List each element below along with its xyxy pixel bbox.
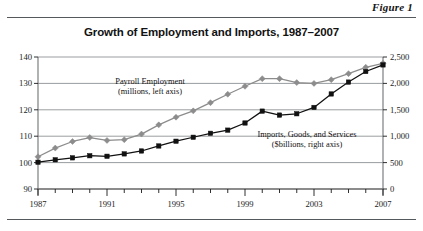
data-point xyxy=(174,139,178,143)
x-axis-tick-label: 1995 xyxy=(167,199,184,209)
line-chart: 9010011012013014005001,0001,5002,0002,50… xyxy=(0,0,423,231)
left-axis-tick-label: 140 xyxy=(19,52,32,62)
data-point xyxy=(208,131,212,135)
right-axis-tick-label: 2,000 xyxy=(390,78,409,88)
data-point xyxy=(294,80,300,86)
x-axis-tick-label: 1991 xyxy=(98,199,115,209)
data-point xyxy=(35,154,41,160)
data-point xyxy=(277,76,283,82)
imports-annotation-line1: Imports, Goods, and Services xyxy=(258,130,357,139)
data-point xyxy=(346,80,350,84)
right-axis-tick-label: 2,500 xyxy=(390,52,409,62)
data-point xyxy=(346,71,352,77)
left-axis-tick-label: 130 xyxy=(19,78,32,88)
data-point xyxy=(173,114,179,120)
data-point xyxy=(381,63,385,67)
data-point xyxy=(242,83,248,89)
figure-container: Figure 1 Growth of Employment and Import… xyxy=(0,0,423,231)
data-point xyxy=(157,144,161,148)
left-axis-tick-label: 120 xyxy=(19,105,32,115)
bottom-divider xyxy=(7,219,416,220)
data-point xyxy=(88,154,92,158)
data-point xyxy=(70,138,76,144)
right-axis-tick-label: 1,500 xyxy=(390,105,409,115)
data-point xyxy=(208,100,214,106)
right-axis-tick-label: 0 xyxy=(390,184,394,194)
x-axis-tick-label: 2007 xyxy=(374,199,392,209)
x-axis-tick-label: 1999 xyxy=(236,199,253,209)
data-point xyxy=(53,158,57,162)
data-point xyxy=(122,152,126,156)
x-axis-tick-label: 2003 xyxy=(305,199,322,209)
employment-annotation-line1: Payroll Employment xyxy=(115,77,185,86)
left-axis-tick-label: 110 xyxy=(19,131,32,141)
left-axis-tick-label: 90 xyxy=(23,184,32,194)
data-point xyxy=(70,156,74,160)
right-axis-tick-label: 500 xyxy=(390,158,403,168)
data-point xyxy=(311,80,317,86)
imports-annotation-line2: ($billions, right axis) xyxy=(272,140,343,149)
employment-annotation-line2: (millions, left axis) xyxy=(118,87,182,96)
x-axis-tick-label: 1987 xyxy=(29,199,47,209)
data-point xyxy=(295,112,299,116)
data-point xyxy=(52,145,58,151)
data-point xyxy=(87,135,93,141)
data-point xyxy=(364,69,368,73)
left-axis-tick-label: 100 xyxy=(19,158,32,168)
data-point xyxy=(191,135,195,139)
data-point xyxy=(36,160,40,164)
data-point xyxy=(104,137,110,143)
data-point xyxy=(277,113,281,117)
data-point xyxy=(329,92,333,96)
data-point xyxy=(225,91,231,97)
data-point xyxy=(243,121,247,125)
data-point xyxy=(121,137,127,143)
chart-plot-area: 9010011012013014005001,0001,5002,0002,50… xyxy=(0,0,423,231)
data-point xyxy=(156,122,162,128)
data-point xyxy=(226,128,230,132)
data-point xyxy=(328,77,334,83)
data-point xyxy=(190,108,196,114)
data-point xyxy=(312,105,316,109)
data-point xyxy=(105,154,109,158)
right-axis-tick-label: 1,000 xyxy=(390,131,409,141)
data-point xyxy=(259,76,265,82)
data-point xyxy=(139,149,143,153)
data-point xyxy=(260,109,264,113)
